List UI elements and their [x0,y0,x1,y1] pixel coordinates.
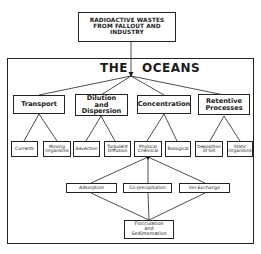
leaf-currents: Currents [11,141,38,157]
leaf-static-organisms: Static Organisms [227,141,253,157]
leaf-turbulent-diffusion: Turbulent Diffusion [104,141,131,157]
leaf-biological: Biological [165,141,191,157]
process-ion-exchange: Ion-Exchange [179,183,230,193]
category-transport: Transport [13,95,65,114]
leaf-physical-chemical: Physical Chemical [134,141,162,157]
oceans-title-left: THE [100,61,128,75]
category-dilution-dispersion: Dilution and Dispersion [75,94,128,116]
oceans-title-right: OCEANS [142,61,200,75]
category-retentive-processes: Retentive Processes [198,94,250,115]
final-flocculation-sedimentation: Flocculation and Sedimentation [124,220,174,239]
source-box: RADIOACTIVE WASTES FROM FALLOUT AND INDU… [78,12,176,42]
category-concentration: Concentration [137,95,191,114]
leaf-moving-organisms: Moving Organisms [43,141,71,157]
leaf-deposition-of-silt: Deposition of Silt [195,141,223,157]
process-adsorption: Adsorption [66,183,117,193]
leaf-advection: Advection [73,141,100,157]
process-co-precipitation: Co-precipitation [123,183,172,193]
